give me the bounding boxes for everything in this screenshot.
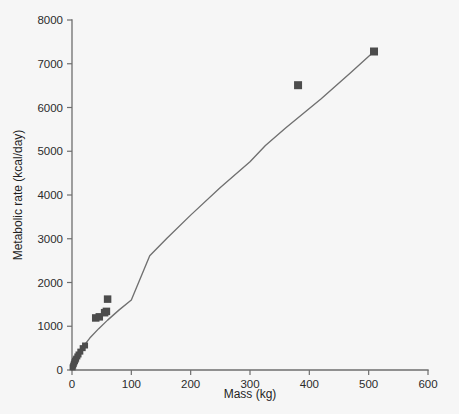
y-tick-label: 2000 bbox=[37, 277, 63, 289]
x-tick-label: 0 bbox=[69, 378, 75, 390]
y-axis-title: Metabolic rate (kcal/day) bbox=[11, 130, 25, 261]
x-tick-label: 400 bbox=[300, 378, 319, 390]
x-tick-label: 600 bbox=[418, 378, 437, 390]
x-tick-label: 500 bbox=[359, 378, 378, 390]
data-point-marker bbox=[103, 308, 111, 316]
y-tick-label: 7000 bbox=[37, 58, 63, 70]
x-tick-label: 100 bbox=[122, 378, 141, 390]
y-tick-label: 0 bbox=[57, 364, 63, 376]
y-axis-tick-labels: 010002000300040005000600070008000 bbox=[37, 14, 63, 376]
data-point-marker bbox=[294, 81, 302, 89]
data-point-marker bbox=[370, 48, 378, 56]
x-tick-label: 200 bbox=[181, 378, 200, 390]
x-axis-title: Mass (kg) bbox=[224, 387, 277, 401]
chart-page: 010002000300040005000600070008000 010020… bbox=[0, 0, 459, 414]
scatter-plot-figure: 010002000300040005000600070008000 010020… bbox=[0, 0, 459, 414]
y-tick-label: 1000 bbox=[37, 320, 63, 332]
data-point-marker bbox=[104, 295, 112, 303]
y-tick-label: 6000 bbox=[37, 102, 63, 114]
y-tick-label: 5000 bbox=[37, 145, 63, 157]
data-point-marker bbox=[82, 343, 88, 349]
plot-background bbox=[0, 0, 459, 414]
y-tick-label: 3000 bbox=[37, 233, 63, 245]
y-tick-label: 8000 bbox=[37, 14, 63, 26]
y-tick-label: 4000 bbox=[37, 189, 63, 201]
